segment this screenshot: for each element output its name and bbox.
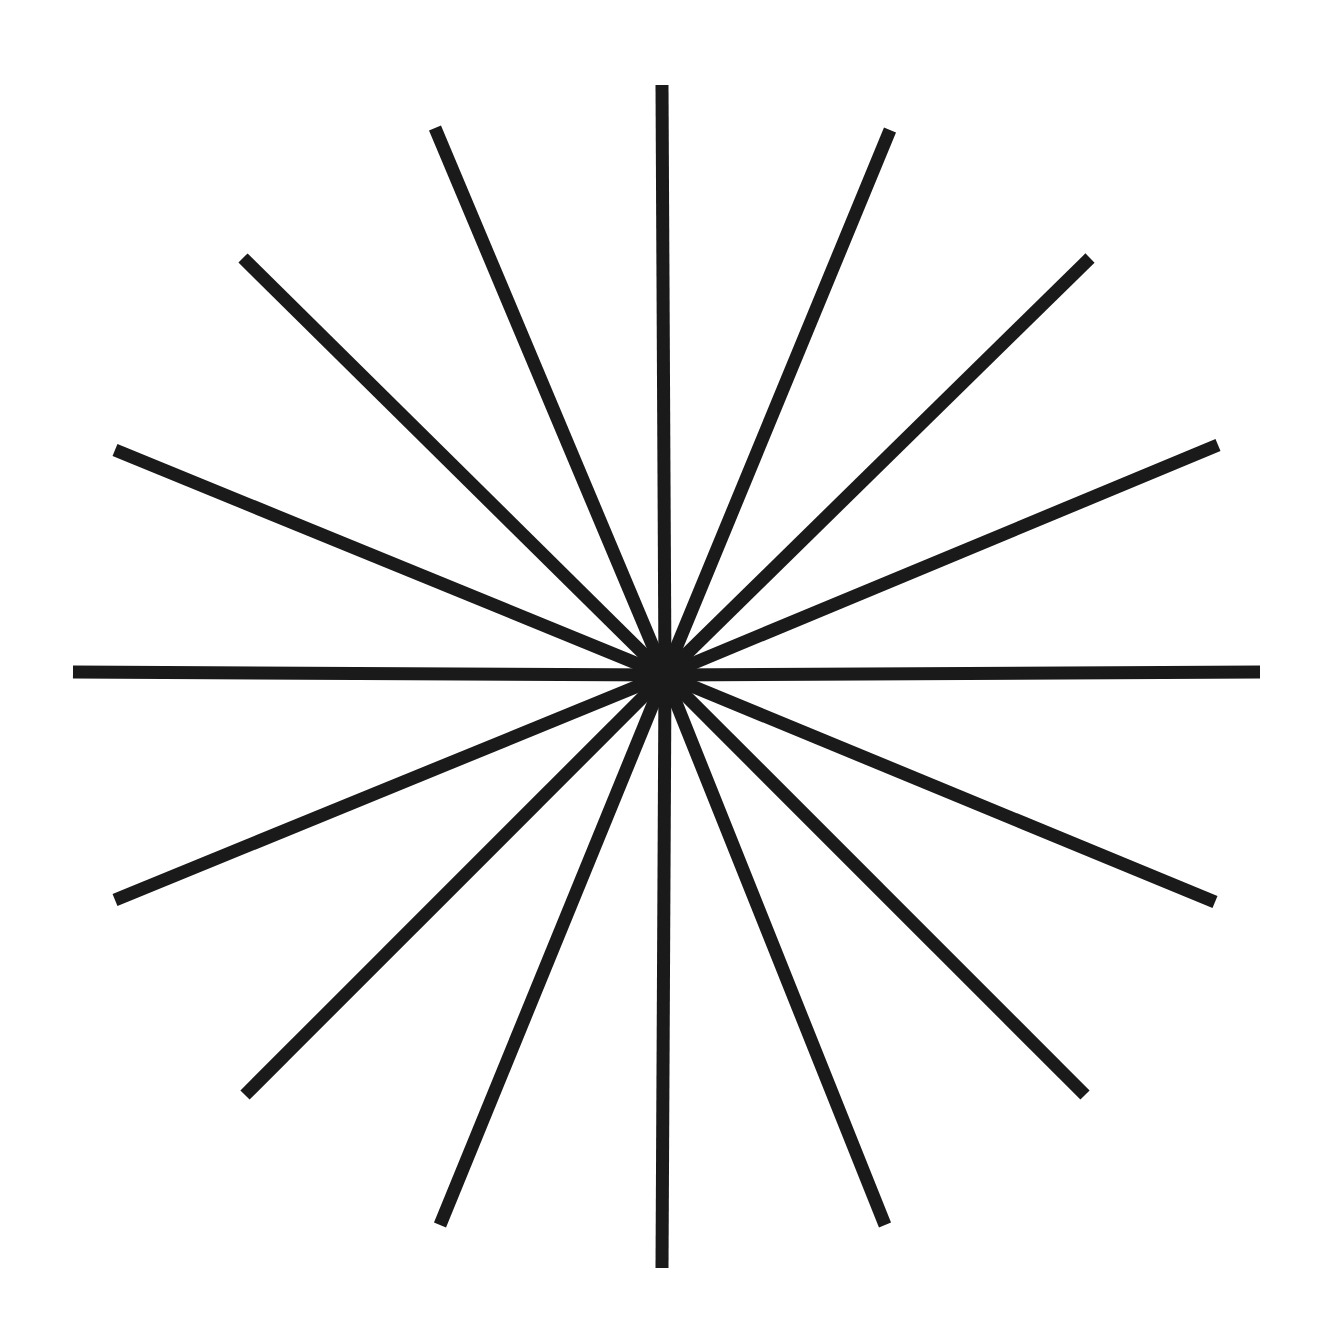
starburst-figure-canvas (0, 0, 1337, 1333)
ray-group (73, 85, 1260, 1268)
ray-right (665, 672, 1260, 675)
starburst-diagram (0, 0, 1337, 1333)
center-hub (634, 644, 696, 706)
ray-left (73, 672, 665, 675)
ray-down (662, 675, 665, 1268)
ray-up (662, 85, 665, 675)
